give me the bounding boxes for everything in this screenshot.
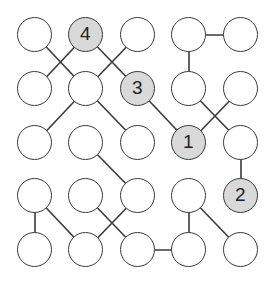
clue-node[interactable]: 1 xyxy=(171,125,206,160)
empty-node[interactable] xyxy=(223,125,258,160)
empty-node[interactable] xyxy=(68,125,103,160)
empty-node[interactable] xyxy=(223,232,258,267)
empty-node[interactable] xyxy=(120,125,155,160)
clue-node[interactable]: 2 xyxy=(223,178,258,213)
empty-node[interactable] xyxy=(171,71,206,106)
empty-node[interactable] xyxy=(171,17,206,52)
clue-node[interactable]: 3 xyxy=(120,71,155,106)
empty-node[interactable] xyxy=(120,232,155,267)
empty-node[interactable] xyxy=(223,71,258,106)
empty-node[interactable] xyxy=(17,178,52,213)
empty-node[interactable] xyxy=(68,178,103,213)
empty-node[interactable] xyxy=(120,178,155,213)
empty-node[interactable] xyxy=(68,71,103,106)
clue-node[interactable]: 4 xyxy=(68,17,103,52)
empty-node[interactable] xyxy=(17,125,52,160)
node-label: 3 xyxy=(132,77,143,99)
node-label: 2 xyxy=(235,184,246,206)
empty-node[interactable] xyxy=(68,232,103,267)
empty-node[interactable] xyxy=(17,71,52,106)
empty-node[interactable] xyxy=(17,232,52,267)
puzzle-board: 4312 xyxy=(0,0,276,286)
empty-node[interactable] xyxy=(171,178,206,213)
node-label: 4 xyxy=(80,23,91,45)
empty-node[interactable] xyxy=(223,17,258,52)
node-label: 1 xyxy=(183,131,194,153)
empty-node[interactable] xyxy=(120,17,155,52)
empty-node[interactable] xyxy=(171,232,206,267)
empty-node[interactable] xyxy=(17,17,52,52)
